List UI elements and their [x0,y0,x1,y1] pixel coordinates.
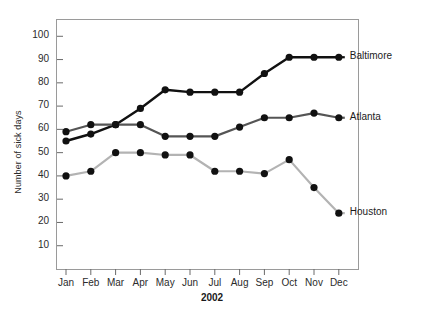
data-point [335,210,342,217]
data-point [62,128,69,135]
y-tick-label: 30 [23,192,49,203]
y-tick-label: 50 [23,146,49,157]
data-point [137,149,144,156]
series-label-houston: Houston [350,206,387,217]
data-point [62,172,69,179]
data-point [335,54,342,61]
data-point [186,133,193,140]
data-point [162,86,169,93]
data-point [335,114,342,121]
data-point [137,105,144,112]
data-point [211,168,218,175]
data-point [87,121,94,128]
data-point [310,184,317,191]
data-point [211,133,218,140]
data-point [186,151,193,158]
data-point [162,151,169,158]
y-tick-label: 100 [23,29,49,40]
data-point [236,123,243,130]
data-point [236,168,243,175]
data-point [236,89,243,96]
data-point [310,54,317,61]
data-point [62,137,69,144]
data-point [186,89,193,96]
x-axis-title: 2002 [152,292,272,303]
series-label-baltimore: Baltimore [350,50,392,61]
data-point [310,109,317,116]
y-tick-label: 20 [23,215,49,226]
data-point [286,156,293,163]
y-tick-label: 90 [23,53,49,64]
data-point [261,170,268,177]
data-point [87,130,94,137]
series-label-atlanta: Atlanta [350,111,381,122]
data-point [286,54,293,61]
data-point [286,114,293,121]
y-tick-label: 10 [23,239,49,250]
data-point [87,168,94,175]
y-tick-label: 70 [23,99,49,110]
plot-area [0,0,441,318]
data-point [261,114,268,121]
x-tick-label: Dec [322,277,356,288]
data-point [162,133,169,140]
sick-days-line-chart: Number of sick days 10203040506070809010… [0,0,441,318]
data-point [112,121,119,128]
data-point [261,70,268,77]
data-point [137,121,144,128]
y-tick-label: 40 [23,169,49,180]
data-point [211,89,218,96]
y-tick-label: 60 [23,122,49,133]
data-point [112,149,119,156]
y-tick-label: 80 [23,76,49,87]
